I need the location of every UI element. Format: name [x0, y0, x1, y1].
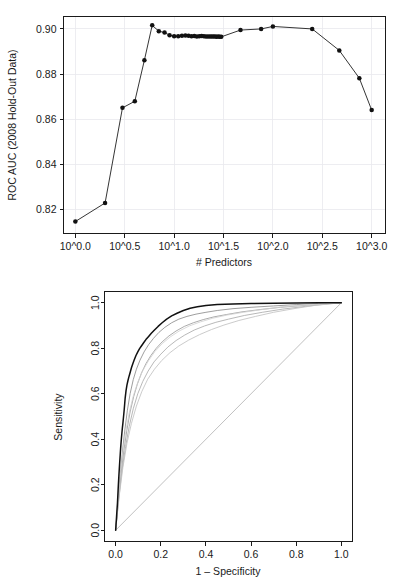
- auc-x-axis-ticks: 10^0.010^0.510^1.010^1.510^2.010^2.510^3…: [60, 234, 388, 252]
- auc-x-tick-label: 10^0.0: [60, 240, 91, 252]
- auc-y-tick-label: 0.90: [36, 23, 57, 35]
- auc-data-point: [172, 34, 177, 39]
- auc-data-point: [73, 219, 78, 224]
- auc-x-tick-label: 10^1.0: [159, 240, 190, 252]
- roc-x-tick-label: 0.2: [153, 548, 168, 560]
- auc-chart-svg: 0.820.840.860.880.90 10^0.010^0.510^1.01…: [0, 0, 398, 272]
- auc-data-point: [357, 76, 362, 81]
- auc-data-point: [162, 30, 167, 35]
- auc-data-point: [167, 33, 172, 38]
- auc-x-axis-title: # Predictors: [196, 256, 252, 268]
- auc-y-tick-label: 0.84: [36, 158, 57, 170]
- auc-y-tick-label: 0.86: [36, 113, 57, 125]
- figure-page: 0.820.840.860.880.90 10^0.010^0.510^1.01…: [0, 0, 398, 582]
- roc-y-tick-label: 0.6: [89, 386, 101, 401]
- chance-diagonal-line: [116, 303, 342, 531]
- roc-y-axis-ticks: 0.00.20.40.60.81.0: [89, 295, 104, 537]
- roc-x-tick-label: 0.0: [108, 548, 123, 560]
- auc-data-point: [142, 58, 147, 63]
- auc-data-point: [310, 27, 315, 32]
- roc-y-tick-label: 0.8: [89, 341, 101, 356]
- roc-y-tick-label: 0.0: [89, 523, 101, 538]
- roc-y-axis-title: Sensitivity: [52, 393, 64, 441]
- roc-x-tick-label: 0.4: [199, 548, 214, 560]
- auc-x-tick-label: 10^1.5: [208, 240, 239, 252]
- auc-data-point: [219, 35, 224, 40]
- auc-y-tick-label: 0.88: [36, 68, 57, 80]
- auc-data-point: [238, 28, 243, 32]
- roc-y-tick-label: 0.4: [89, 432, 101, 447]
- auc-x-tick-label: 10^2.0: [257, 240, 288, 252]
- roc-curves-figure: 0.00.20.40.60.81.0 0.00.20.40.60.81.0 1 …: [0, 272, 398, 582]
- auc-y-tick-label: 0.82: [36, 203, 57, 215]
- auc-data-point: [157, 29, 162, 34]
- auc-y-axis-title: ROC AUC (2008 Hold-Out Data): [6, 49, 18, 200]
- auc-x-tick-label: 10^3.0: [356, 240, 387, 252]
- roc-chart-svg: 0.00.20.40.60.81.0 0.00.20.40.60.81.0 1 …: [0, 272, 398, 582]
- auc-data-point: [133, 99, 138, 104]
- auc-data-point: [120, 106, 125, 111]
- auc-y-axis-ticks: 0.820.840.860.880.90: [36, 23, 63, 216]
- auc-vs-predictors-figure: 0.820.840.860.880.90 10^0.010^0.510^1.01…: [0, 0, 398, 272]
- auc-data-point: [103, 201, 108, 206]
- auc-x-tick-label: 10^0.5: [109, 240, 140, 252]
- roc-x-axis-ticks: 0.00.20.40.60.81.0: [108, 542, 348, 560]
- auc-x-tick-label: 10^2.5: [307, 240, 338, 252]
- auc-data-point: [337, 48, 342, 53]
- auc-data-point: [259, 27, 264, 32]
- roc-y-tick-label: 1.0: [89, 295, 101, 310]
- roc-y-tick-label: 0.2: [89, 477, 101, 492]
- roc-x-axis-title: 1 – Specificity: [196, 565, 262, 577]
- roc-x-tick-label: 0.8: [289, 548, 304, 560]
- auc-data-point: [150, 23, 155, 28]
- auc-data-point: [271, 24, 276, 29]
- roc-x-tick-label: 0.6: [244, 548, 259, 560]
- roc-x-tick-label: 1.0: [334, 548, 349, 560]
- auc-data-point: [369, 108, 374, 113]
